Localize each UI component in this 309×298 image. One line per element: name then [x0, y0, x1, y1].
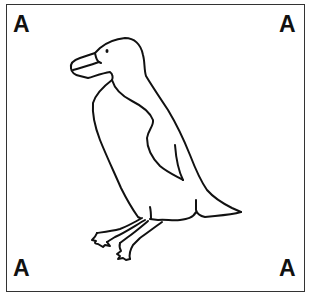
bird-outline-back: [71, 38, 241, 212]
bird-wing-line: [175, 145, 183, 180]
bird-belly-line: [150, 207, 151, 219]
bird-outline-tail: [150, 200, 241, 220]
bird-beak-base: [95, 53, 101, 63]
bird-beak-line: [73, 62, 99, 70]
bird-eye: [106, 49, 109, 53]
bird-foot-right: [117, 243, 130, 260]
bird-wing-patch: [112, 80, 183, 180]
great-auk-drawing: [0, 0, 309, 298]
bird-foot-left: [92, 233, 110, 247]
